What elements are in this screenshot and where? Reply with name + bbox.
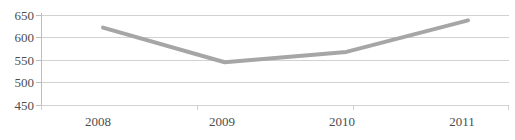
line-chart: 650 600 550 500 450 2008 2009 2010 2011 xyxy=(0,0,515,140)
data-series-layer xyxy=(0,0,515,140)
series-line xyxy=(103,20,468,62)
